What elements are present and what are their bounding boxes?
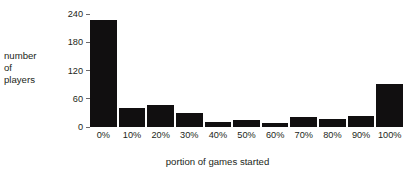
y-axis-tick: 60 [73, 94, 90, 104]
y-axis-tick-label: 0 [78, 122, 83, 132]
x-axis-tick-label: 50% [233, 130, 260, 141]
x-axis-tick-label: 10% [119, 130, 146, 141]
x-axis-tick-label: 30% [176, 130, 203, 141]
y-axis-tick-label: 240 [68, 9, 83, 19]
y-axis-tick-label: 120 [68, 66, 83, 76]
bar [319, 119, 346, 127]
x-axis-label: portion of games started [0, 156, 411, 167]
x-axis-tick-label: 60% [262, 130, 289, 141]
x-axis-label-text: portion of games started [166, 156, 269, 167]
bar [205, 122, 232, 127]
bar [90, 20, 117, 127]
x-axis-tick-label: 80% [319, 130, 346, 141]
bar [119, 108, 146, 127]
y-axis-tick: 0 [78, 122, 90, 132]
bar-series [90, 14, 403, 127]
bar [176, 113, 203, 127]
bar [348, 116, 375, 127]
bar [290, 117, 317, 127]
x-axis-tick-label: 70% [290, 130, 317, 141]
bar [147, 105, 174, 127]
y-axis-tick-label: 180 [68, 37, 83, 47]
x-axis-ticks: 0%10%20%30%40%50%60%70%80%90%100% [90, 130, 403, 141]
x-axis-tick-label: 20% [147, 130, 174, 141]
y-axis-tick: 120 [68, 66, 90, 76]
x-axis-tick-label: 40% [205, 130, 232, 141]
bar-chart-figure: number of players 060120180240 0%10%20%3… [0, 0, 411, 173]
bar [233, 120, 260, 127]
bar [376, 84, 403, 127]
y-axis-tick-label: 60 [73, 94, 83, 104]
x-axis-tick-label: 90% [348, 130, 375, 141]
bar [262, 123, 289, 127]
plot-area [90, 14, 403, 127]
y-axis-tick: 180 [68, 37, 90, 47]
y-axis-tick: 240 [68, 9, 90, 19]
x-axis-tick-label: 0% [90, 130, 117, 141]
chart-title [90, 0, 390, 2]
y-axis-ticks: 060120180240 [0, 0, 90, 140]
x-axis-tick-label: 100% [376, 130, 403, 141]
